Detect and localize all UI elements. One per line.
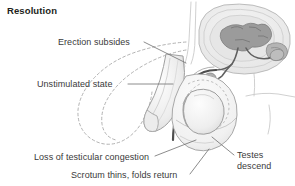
leader-scrotum-thins xyxy=(190,149,209,174)
testis xyxy=(183,89,224,134)
label-unstimulated-state: Unstimulated state xyxy=(37,79,112,90)
label-scrotum-thins-folds-return: Scrotum thins, folds return xyxy=(71,170,177,181)
figure-title: Resolution xyxy=(7,5,57,16)
label-testes-descend-line2: descend xyxy=(237,161,271,171)
label-testes-descend: Testes descend xyxy=(237,150,271,172)
label-erection-subsides: Erection subsides xyxy=(58,37,130,48)
label-testes-descend-line1: Testes xyxy=(237,150,263,160)
label-loss-of-testicular-congestion: Loss of testicular congestion xyxy=(34,152,149,163)
